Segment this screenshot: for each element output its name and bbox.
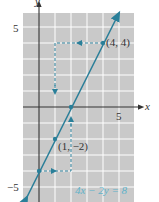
y-tick-5: 5 [13,23,19,34]
y-tick-neg5: −5 [7,182,19,193]
chart-canvas [0,0,159,202]
point-1-neg2 [53,137,57,141]
point-label-4-4: (4, 4) [106,37,130,48]
x-axis-label: x [145,101,150,112]
point-2-0 [69,105,73,109]
point-0-neg4 [37,169,41,173]
y-axis-label: y [35,0,40,7]
point-4-4 [101,41,105,45]
x-tick-5: 5 [116,111,122,122]
point-label-1-neg2: (1, −2) [58,141,88,152]
equation-label: 4x − 2y = 8 [75,185,127,196]
